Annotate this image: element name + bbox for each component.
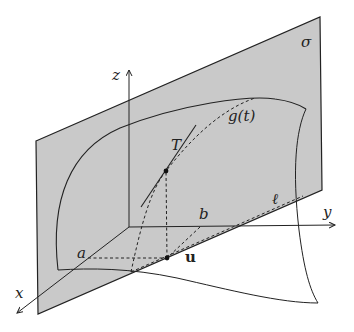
point-T <box>164 169 169 174</box>
label-u: u <box>185 248 196 266</box>
label-g-t: g(t) <box>228 107 255 125</box>
label-x: x <box>15 284 24 302</box>
point-u <box>165 256 170 261</box>
label-z: z <box>111 66 120 84</box>
diagram-canvas: σ g(t) T ℓ a b u x y z <box>0 0 354 332</box>
label-b: b <box>199 205 209 223</box>
label-sigma: σ <box>301 33 312 51</box>
label-l: ℓ <box>272 190 278 208</box>
label-T: T <box>171 136 182 154</box>
label-a: a <box>77 244 86 262</box>
label-y: y <box>322 203 332 221</box>
